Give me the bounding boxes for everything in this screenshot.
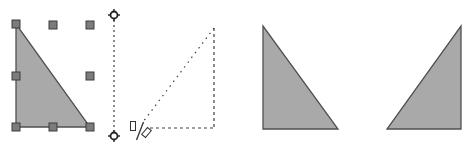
rotation-axis-handle-icon[interactable] [108,9,120,21]
flipping-panel [108,9,214,142]
original-triangle [263,26,338,129]
handle-middle-left[interactable] [12,72,20,80]
flip-cursor-icon [131,122,152,141]
handle-bottom-right[interactable] [86,123,94,131]
handle-middle-right[interactable] [86,72,94,80]
handle-top-left[interactable] [12,20,20,28]
selected-triangle[interactable] [16,24,90,127]
rotation-axis-handle-icon[interactable] [108,130,120,142]
handle-bottom-middle[interactable] [49,123,57,131]
flip-preview-outline [143,28,214,128]
handle-top-right[interactable] [86,21,94,29]
handle-bottom-left[interactable] [12,123,20,131]
selected-triangle-panel [12,20,94,131]
flipped-triangle [387,26,461,129]
illustration-canvas [0,0,475,147]
handle-top-middle[interactable] [49,21,57,29]
